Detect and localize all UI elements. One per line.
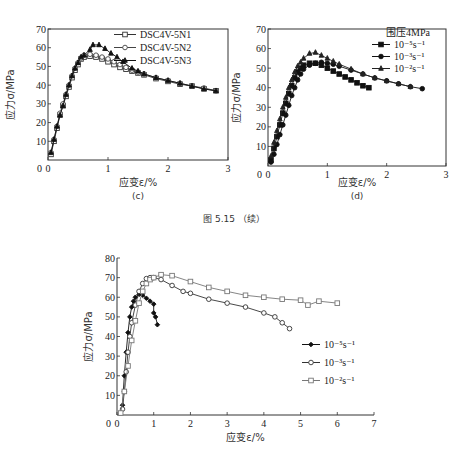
data-marker xyxy=(118,411,123,416)
legend-title: 围压4MPa xyxy=(386,27,430,38)
y-axis-label: 应力σ/MPa xyxy=(230,72,242,122)
data-marker xyxy=(94,53,99,58)
plot-frame xyxy=(48,29,228,160)
data-marker xyxy=(379,42,384,47)
y-tick-label: 40 xyxy=(105,331,115,342)
data-marker xyxy=(319,53,324,58)
figure: 0123102030405060700应变ε/%应力σ/MPa(c)DSC4V-… xyxy=(0,0,468,453)
chart-panel-d: 0123102030405060700应变ε/%应力σ/MPa(d)围压4MPa… xyxy=(230,24,449,202)
data-marker xyxy=(225,289,230,294)
x-tick-label: 3 xyxy=(444,169,449,180)
data-marker xyxy=(298,298,303,303)
data-marker xyxy=(262,311,267,316)
data-marker xyxy=(188,291,193,296)
data-marker xyxy=(313,61,318,66)
data-marker xyxy=(123,58,128,63)
legend-item: DSC4V-5N1 xyxy=(114,29,191,40)
data-marker xyxy=(273,315,278,320)
data-marker xyxy=(140,289,145,294)
figure-caption: 图 5.15 （续） xyxy=(203,213,265,224)
series-0 xyxy=(269,61,372,162)
y-axis-label: 应力σ/MPa xyxy=(4,69,16,119)
data-marker xyxy=(287,326,292,331)
chart-panel-c: 0123102030405060700应变ε/%应力σ/MPa(c)DSC4V-… xyxy=(4,24,231,202)
data-marker xyxy=(124,65,129,70)
y-tick-label: 20 xyxy=(36,117,46,128)
data-marker xyxy=(317,299,322,304)
data-marker xyxy=(379,66,384,71)
data-marker xyxy=(349,66,354,71)
data-marker xyxy=(159,272,164,277)
data-marker xyxy=(103,46,108,51)
data-marker xyxy=(269,160,274,165)
data-marker xyxy=(281,123,286,128)
data-marker xyxy=(155,322,160,327)
x-axis-label: 应变ε/% xyxy=(226,431,264,443)
data-marker xyxy=(284,113,289,118)
y-axis-label: 应力σ/MPa xyxy=(82,311,94,361)
data-marker xyxy=(307,63,312,68)
legend-label: DSC4V-5N3 xyxy=(140,55,191,66)
data-marker xyxy=(128,315,133,320)
y-tick-label: 30 xyxy=(36,98,46,109)
data-marker xyxy=(355,81,360,86)
legend-item: 10⁻²s⁻¹ xyxy=(372,63,424,74)
x-tick-label: 3 xyxy=(225,418,230,429)
data-marker xyxy=(170,273,175,278)
data-marker xyxy=(106,57,111,62)
data-marker xyxy=(361,83,366,88)
x-tick-label: 6 xyxy=(335,418,340,429)
legend-item: 10⁻²s⁻¹ xyxy=(302,375,354,386)
data-marker xyxy=(337,61,342,66)
data-marker xyxy=(137,301,142,306)
y-tick-label: 50 xyxy=(256,63,266,74)
data-marker xyxy=(313,50,318,55)
y-tick-label: 40 xyxy=(256,82,266,93)
legend: 围压4MPa10⁻⁵s⁻¹10⁻³s⁻¹10⁻²s⁻¹ xyxy=(372,27,430,74)
data-marker xyxy=(130,66,135,71)
x-tick-label: 0 xyxy=(46,163,51,174)
data-marker xyxy=(129,338,134,343)
data-marker xyxy=(97,42,102,47)
data-marker xyxy=(280,320,285,325)
data-marker xyxy=(349,78,354,83)
data-marker xyxy=(286,103,291,108)
y-tick-label: 60 xyxy=(256,43,266,54)
data-marker xyxy=(206,297,211,302)
data-marker xyxy=(319,60,324,65)
panel-label: (d) xyxy=(351,191,364,201)
data-marker xyxy=(325,56,330,61)
data-marker xyxy=(115,54,120,59)
legend-label: 10⁻²s⁻¹ xyxy=(394,63,424,74)
x-tick-label: 2 xyxy=(188,418,193,429)
data-marker xyxy=(309,378,314,383)
y-tick-label: 50 xyxy=(105,311,115,322)
data-marker xyxy=(170,283,175,288)
data-marker xyxy=(100,55,105,60)
legend-label: 10⁻⁵s⁻¹ xyxy=(324,339,355,350)
data-marker xyxy=(181,289,186,294)
y-tick-label: 10 xyxy=(105,390,115,401)
data-marker xyxy=(243,305,248,310)
y-tick-label: 10 xyxy=(36,136,46,147)
data-marker xyxy=(123,32,128,37)
x-tick-label: 0 xyxy=(266,169,271,180)
legend-item: DSC4V-5N3 xyxy=(114,55,191,66)
y-tick-label: 20 xyxy=(105,370,115,381)
x-tick-label: 4 xyxy=(261,418,266,429)
y-tick-label: 60 xyxy=(105,292,115,303)
legend-item: 10⁻⁵s⁻¹ xyxy=(372,39,425,50)
x-tick-label: 2 xyxy=(166,163,171,174)
data-marker xyxy=(301,67,306,72)
data-marker xyxy=(301,56,306,61)
y-tick-label: 20 xyxy=(256,121,266,132)
series-2 xyxy=(118,272,339,415)
x-tick-label: 1 xyxy=(151,418,156,429)
data-marker xyxy=(343,75,348,80)
legend: DSC4V-5N1DSC4V-5N2DSC4V-5N3 xyxy=(114,29,191,66)
data-marker xyxy=(306,303,311,308)
legend-item: 10⁻⁵s⁻¹ xyxy=(302,339,355,350)
data-marker xyxy=(379,54,384,59)
legend-label: 10⁻³s⁻¹ xyxy=(394,51,424,62)
data-marker xyxy=(123,45,128,50)
